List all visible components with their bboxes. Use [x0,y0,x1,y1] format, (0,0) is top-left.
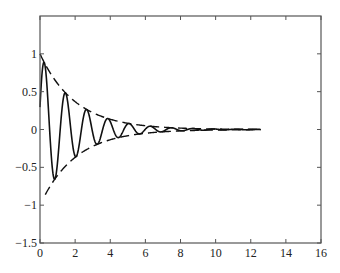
x-tick-label: 8 [178,246,184,260]
y-tick-label: 0 [31,123,37,137]
y-tick-label: 1 [31,47,37,61]
x-tick-label: 10 [210,246,222,260]
x-tick-label: 2 [72,246,78,260]
y-tick-label: −1 [24,198,37,212]
x-tick-label: 12 [245,246,257,260]
y-tick-label: −0.5 [15,160,37,174]
y-tick-label: 0.5 [22,85,37,99]
x-tick-label: 4 [107,246,113,260]
upper-envelope-line [40,54,261,130]
lower-envelope-line [45,130,260,195]
y-axis-ticks: 10.50−0.5−1−1.5 [15,47,321,250]
chart: 0246810121416 10.50−0.5−1−1.5 [0,0,340,273]
x-tick-label: 14 [280,246,292,260]
damped-oscillation-line [40,62,261,179]
plot-series [40,54,261,195]
y-tick-label: −1.5 [15,236,37,250]
x-tick-label: 16 [315,246,327,260]
x-tick-label: 6 [142,246,148,260]
x-tick-label: 0 [37,246,43,260]
